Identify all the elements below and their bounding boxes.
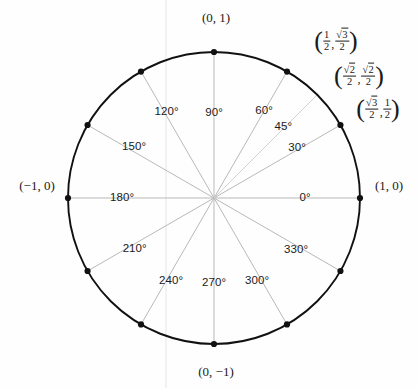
angle-label-60: 60° — [255, 105, 273, 117]
point-dot-210 — [84, 268, 90, 274]
angle-label-45: 45° — [275, 121, 293, 133]
point-dot-90 — [211, 49, 217, 55]
angle-label-330: 330° — [284, 244, 308, 256]
point-dot-300 — [284, 321, 290, 327]
spoke-210 — [88, 198, 214, 271]
angle-label-0: 0° — [299, 192, 310, 204]
coord-30: (√32,12) — [356, 98, 399, 121]
point-dot-60 — [284, 68, 290, 74]
spoke-30 — [214, 125, 340, 198]
axis-coord-bottom: (0, −1) — [198, 365, 234, 378]
spoke-150 — [88, 125, 214, 198]
point-dot-270 — [211, 341, 217, 347]
unit-circle-canvas — [0, 0, 418, 388]
point-dot-180 — [65, 195, 71, 201]
angle-label-120: 120° — [154, 106, 178, 118]
point-dot-30 — [337, 122, 343, 128]
point-dot-150 — [84, 122, 90, 128]
point-dot-120 — [138, 68, 144, 74]
angle-label-270: 270° — [202, 277, 226, 289]
axis-coord-left: (−1, 0) — [19, 179, 55, 192]
point-dot-240 — [138, 321, 144, 327]
angle-label-180: 180° — [110, 192, 134, 204]
angle-label-210: 210° — [123, 243, 147, 255]
axis-coord-top: (0, 1) — [202, 11, 230, 24]
spoke-60 — [214, 72, 287, 198]
axis-coord-right: (1, 0) — [375, 179, 403, 192]
angle-label-30: 30° — [288, 142, 306, 154]
angle-label-300: 300° — [245, 275, 269, 287]
spoke-240 — [141, 198, 214, 324]
point-dot-0 — [357, 195, 363, 201]
spoke-330 — [214, 198, 340, 271]
angle-label-90: 90° — [205, 107, 223, 119]
angle-label-240: 240° — [159, 275, 183, 287]
point-dot-330 — [337, 268, 343, 274]
spoke-120 — [141, 72, 214, 198]
unit-circle-diagram: 0°30°45°60°90°120°150°180°210°240°270°30… — [0, 0, 418, 388]
spoke-300 — [214, 198, 287, 324]
coord-60: (12,√32) — [314, 30, 357, 53]
angle-label-150: 150° — [122, 141, 146, 153]
coord-45: (√22,√22) — [334, 65, 384, 88]
